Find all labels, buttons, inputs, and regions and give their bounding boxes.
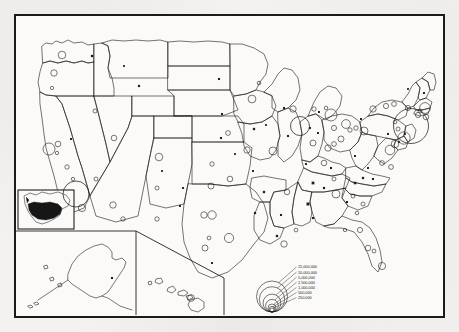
population-symbols — [43, 51, 430, 301]
population-symbol-circle — [226, 131, 231, 136]
state-boundaries — [38, 40, 436, 278]
population-symbol-circle — [50, 86, 53, 89]
population-symbol-small — [330, 167, 332, 169]
population-symbol-circle — [284, 189, 290, 195]
state-minnesota — [230, 44, 268, 96]
hawaii-inset-border — [136, 231, 224, 315]
island-kauai — [155, 278, 163, 284]
state-wyoming — [132, 96, 174, 116]
population-symbol-small — [253, 128, 255, 130]
aleutian-island-2 — [28, 305, 33, 308]
population-symbol-small — [280, 214, 282, 216]
population-symbol-circle — [372, 249, 376, 253]
state-nevada — [56, 96, 110, 196]
hawaii-inset — [148, 278, 204, 312]
us-proportional-symbol-map: 15,000,00010,000,0005,000,0002,500,0001,… — [16, 16, 442, 315]
population-symbol-circle — [312, 107, 316, 111]
population-symbol-circle — [210, 162, 214, 166]
aleutian-island-1 — [34, 302, 39, 305]
population-symbol-small — [362, 177, 364, 179]
population-symbol-small — [323, 187, 325, 189]
state-north-carolina — [344, 178, 386, 196]
island-oahu — [167, 286, 176, 293]
population-symbol-small — [398, 141, 400, 143]
population-symbol-circle — [227, 176, 233, 182]
population-symbol-small — [91, 55, 93, 57]
population-symbol-circle — [291, 117, 310, 136]
population-symbol-circle — [392, 102, 397, 107]
population-symbol-circle — [51, 70, 57, 76]
population-symbol-circle — [324, 106, 328, 110]
population-symbol-circle — [383, 103, 388, 108]
proportional-circle-legend: 15,000,00010,000,0005,000,0002,500,0001,… — [257, 264, 318, 312]
island-molokai — [178, 290, 188, 296]
population-symbol-small — [234, 153, 236, 155]
state-mississippi — [270, 182, 298, 228]
state-idaho — [94, 43, 114, 96]
population-symbol-circle — [332, 142, 337, 147]
population-symbol-circle — [360, 127, 368, 135]
alaska-island-3 — [44, 265, 48, 269]
legend-circle — [263, 294, 281, 312]
population-symbol-small — [70, 138, 72, 140]
state-texas — [182, 184, 268, 278]
population-symbol-small — [354, 182, 357, 185]
legend-leader-line — [276, 277, 297, 295]
state-nebraska — [168, 90, 238, 116]
population-symbol-circle — [188, 295, 195, 302]
population-symbol-small — [387, 133, 389, 135]
state-north-dakota — [168, 41, 230, 66]
state-maine — [422, 72, 436, 90]
population-symbol-circle — [342, 120, 351, 129]
state-wisconsin — [264, 68, 300, 112]
population-symbol-small — [265, 124, 267, 126]
population-symbol-circle — [155, 186, 159, 190]
population-symbol-small — [312, 217, 314, 219]
population-symbol-circle — [155, 153, 163, 161]
population-symbol-circle — [357, 227, 362, 232]
population-symbol-circle — [396, 127, 400, 131]
population-symbol-small — [123, 65, 125, 67]
population-symbol-circle — [394, 109, 429, 144]
state-louisiana — [254, 202, 284, 244]
alaska-island-4 — [50, 277, 54, 281]
population-symbol-circle — [378, 262, 385, 269]
legend-circle — [270, 308, 274, 312]
population-symbol-small — [182, 187, 184, 189]
state-ohio — [322, 114, 362, 152]
population-symbol-circle — [248, 95, 256, 103]
population-symbol-small — [367, 167, 369, 169]
population-symbol-small — [220, 137, 222, 139]
population-symbol-circle — [43, 143, 55, 155]
population-symbol-circle — [321, 160, 327, 166]
population-symbol-small — [254, 212, 256, 214]
legend-labels: 15,000,00010,000,0005,000,0002,500,0001,… — [298, 264, 318, 300]
population-symbol-circle — [332, 177, 336, 181]
map-page: 15,000,00010,000,0005,000,0002,500,0001,… — [0, 0, 459, 332]
population-symbol-circle — [201, 212, 207, 218]
population-symbol-small — [307, 203, 310, 206]
alaska-mainland — [68, 244, 126, 298]
population-symbol-small — [161, 170, 163, 172]
alaska-inset-border — [16, 231, 136, 315]
population-symbol-circle — [281, 241, 287, 247]
population-symbol-circle — [65, 165, 69, 169]
island-hawaii — [188, 298, 204, 312]
population-symbol-circle — [244, 147, 250, 153]
population-symbol-small — [354, 155, 356, 157]
population-symbol-circle — [71, 177, 74, 180]
population-symbol-circle — [290, 106, 296, 112]
population-symbol-circle — [354, 126, 358, 130]
legend-circle — [266, 299, 279, 312]
state-west-virginia — [350, 132, 378, 170]
population-symbol-small — [317, 132, 319, 134]
state-utah — [94, 96, 132, 162]
population-symbol-circle — [332, 190, 340, 198]
locator-inset — [18, 190, 74, 229]
state-oregon — [38, 61, 94, 96]
state-oklahoma — [192, 142, 252, 186]
population-symbol-small — [111, 277, 113, 279]
population-symbol-circle — [310, 140, 316, 146]
population-symbol-small — [309, 127, 311, 129]
population-symbol-circle — [331, 125, 336, 130]
